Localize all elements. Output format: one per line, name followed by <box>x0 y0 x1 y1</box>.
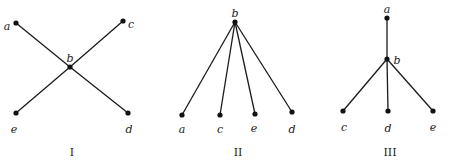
vertex-label-c: c <box>128 18 134 31</box>
vertex-e <box>430 108 435 113</box>
vertex-e <box>13 110 18 115</box>
graph-caption: III <box>383 146 396 159</box>
vertex-b <box>67 64 72 69</box>
vertex-label-a: a <box>179 123 186 136</box>
graph-caption: I <box>70 146 74 159</box>
vertex-a <box>384 15 389 20</box>
vertex-label-b: b <box>231 7 238 20</box>
edge-c-b <box>70 21 123 67</box>
vertex-label-e: e <box>251 122 258 135</box>
vertex-label-a: a <box>384 3 391 16</box>
graph-diagram: abcdeI bacedII abcdeIII <box>0 0 450 166</box>
edge-b-d <box>70 67 128 113</box>
edge-b-d <box>235 22 292 112</box>
vertex-d <box>125 110 130 115</box>
graph-III: abcdeIII <box>340 3 436 159</box>
edge-b-c <box>343 59 387 111</box>
vertex-c <box>120 18 125 23</box>
vertex-label-c: c <box>217 123 223 136</box>
vertex-c <box>340 108 345 113</box>
vertex-label-a: a <box>4 20 11 33</box>
graph-II: bacedII <box>179 7 296 159</box>
vertex-c <box>217 112 222 117</box>
vertex-label-d: d <box>288 123 295 136</box>
graph-caption: II <box>234 146 243 159</box>
vertex-label-c: c <box>341 121 347 134</box>
vertex-e <box>252 111 257 116</box>
vertex-b <box>384 56 389 61</box>
vertex-d <box>289 109 294 114</box>
edge-b-e <box>235 22 255 114</box>
vertex-a <box>179 112 184 117</box>
vertex-label-d: d <box>384 122 391 135</box>
vertex-d <box>385 108 390 113</box>
vertex-label-b: b <box>66 52 73 65</box>
vertex-a <box>13 20 18 25</box>
vertex-label-b: b <box>393 54 400 67</box>
graph-I: abcdeI <box>4 18 134 159</box>
vertex-label-d: d <box>125 123 132 136</box>
vertex-label-e: e <box>430 121 437 134</box>
vertex-label-e: e <box>11 123 18 136</box>
vertex-b <box>232 19 237 24</box>
edge-b-e <box>16 67 70 113</box>
edge-a-b <box>16 23 70 67</box>
edge-b-d <box>387 59 388 111</box>
